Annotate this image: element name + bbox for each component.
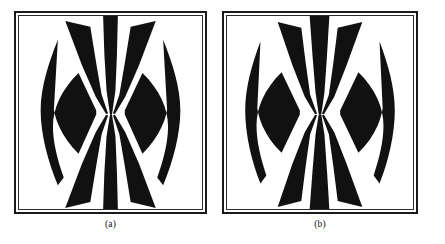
figure-panel-b: (b) — [222, 11, 418, 230]
figure-row: (a) — [0, 0, 445, 244]
panel-b-caption: (b) — [314, 218, 326, 230]
panel-b-pattern — [227, 16, 413, 209]
panel-a-frame-inner — [18, 15, 203, 210]
panel-b-frame — [222, 11, 418, 214]
panel-a-frame — [14, 11, 207, 214]
panel-b-frame-inner — [226, 15, 414, 210]
panel-a-caption: (a) — [105, 218, 116, 230]
figure-panel-a: (a) — [14, 11, 207, 230]
panel-a-pattern — [19, 16, 202, 209]
